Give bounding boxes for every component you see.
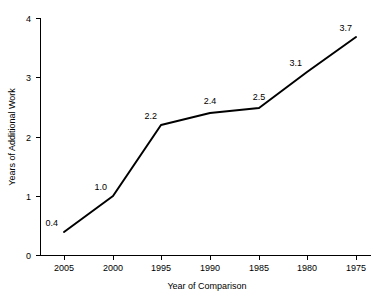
point-label-1975: 3.7 bbox=[339, 23, 352, 33]
y-tick-label-4: 4 bbox=[26, 14, 31, 24]
x-axis-title: Year of Comparison bbox=[167, 281, 246, 291]
point-label-1980: 3.1 bbox=[289, 58, 302, 68]
x-tick-label-2: 1995 bbox=[151, 263, 171, 273]
x-tick-label-5: 1980 bbox=[297, 263, 317, 273]
point-label-1990: 2.4 bbox=[204, 96, 217, 106]
point-label-2000: 1.0 bbox=[94, 182, 107, 192]
x-tick-label-1: 2000 bbox=[103, 263, 123, 273]
x-tick-label-3: 1990 bbox=[200, 263, 220, 273]
y-tick-label-1: 1 bbox=[26, 192, 31, 202]
y-tick-label-2: 2 bbox=[26, 133, 31, 143]
chart-background bbox=[0, 0, 388, 297]
x-tick-label-6: 1975 bbox=[346, 263, 366, 273]
y-tick-label-3: 3 bbox=[26, 73, 31, 83]
point-label-1985: 2.5 bbox=[253, 92, 266, 102]
y-tick-label-0: 0 bbox=[26, 251, 31, 261]
y-axis-title: Years of Additional Work bbox=[7, 88, 17, 186]
x-tick-label-4: 1985 bbox=[249, 263, 269, 273]
point-label-1995: 2.2 bbox=[144, 111, 157, 121]
x-tick-label-0: 2005 bbox=[54, 263, 74, 273]
point-label-2005: 0.4 bbox=[45, 218, 58, 228]
line-chart: 4 3 2 1 0 2005 2000 1995 1990 1985 1980 … bbox=[0, 0, 388, 297]
chart-container: 4 3 2 1 0 2005 2000 1995 1990 1985 1980 … bbox=[0, 0, 388, 297]
